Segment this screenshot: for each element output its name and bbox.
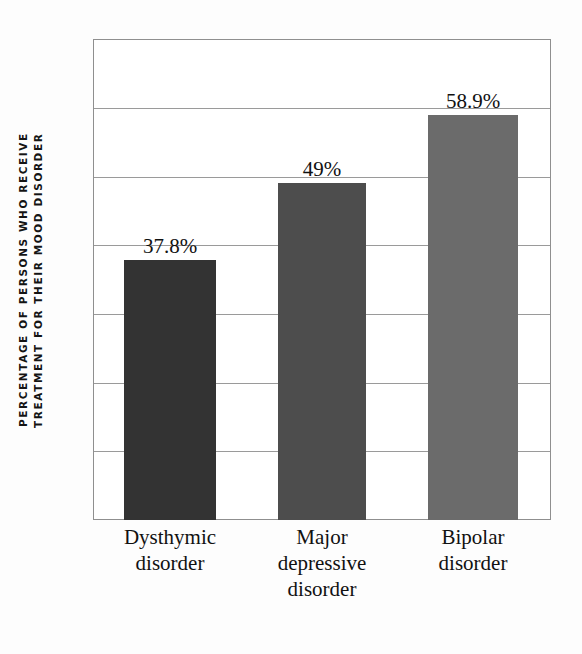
bar-bipolar-disorder[interactable] <box>428 115 518 520</box>
y-axis-title-line-1: PERCENTAGE OF PERSONS WHO RECEIVE <box>18 40 29 520</box>
category-label-line: Major <box>242 524 402 550</box>
value-label-dysthymic-disorder: 37.8% <box>110 234 230 259</box>
value-label-bipolar-disorder: 58.9% <box>413 89 533 114</box>
chart-page: PERCENTAGE OF PERSONS WHO RECEIVE TREATM… <box>0 0 582 654</box>
category-label-line: disorder <box>393 550 553 576</box>
y-axis-title-line-2: TREATMENT FOR THEIR MOOD DISORDER <box>33 40 44 520</box>
category-label-line: Bipolar <box>393 524 553 550</box>
x-axis-category-labels: Dysthymic disorder Major depressive diso… <box>93 524 551 644</box>
bar-dysthymic-disorder[interactable] <box>124 260 216 520</box>
category-label-major-depressive-disorder: Major depressive disorder <box>242 524 402 602</box>
category-label-bipolar-disorder: Bipolar disorder <box>393 524 553 576</box>
bar-major-depressive-disorder[interactable] <box>278 183 366 520</box>
category-label-dysthymic-disorder: Dysthymic disorder <box>90 524 250 576</box>
category-label-line: disorder <box>90 550 250 576</box>
category-label-line: disorder <box>242 576 402 602</box>
category-label-line: depressive <box>242 550 402 576</box>
y-axis-title: PERCENTAGE OF PERSONS WHO RECEIVE TREATM… <box>18 40 80 520</box>
category-label-line: Dysthymic <box>90 524 250 550</box>
value-label-major-depressive-disorder: 49% <box>262 157 382 182</box>
